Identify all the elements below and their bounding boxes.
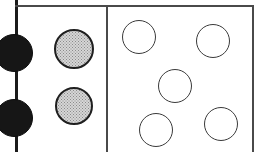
open-circle-bottom-left <box>139 113 173 147</box>
open-circle-bottom-right <box>204 107 238 141</box>
figure-canvas <box>0 0 261 152</box>
open-circle-top-left <box>122 20 156 54</box>
open-circle-top-right <box>196 24 230 58</box>
open-circle-panel <box>0 0 261 152</box>
open-circle-center <box>158 69 192 103</box>
